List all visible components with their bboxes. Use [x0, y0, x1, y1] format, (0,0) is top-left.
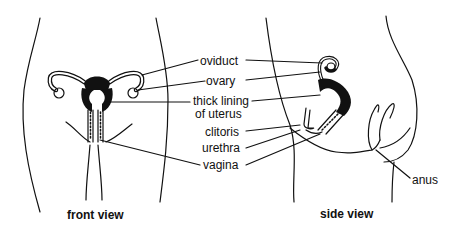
label-urethra: urethra [202, 142, 240, 155]
front-oviduct-right [110, 73, 142, 90]
front-ovary-left [54, 88, 64, 98]
caption-front-view: front view [67, 208, 124, 222]
front-groin-left [66, 122, 90, 142]
side-uterus-lining [318, 79, 351, 117]
front-groin-right [106, 124, 132, 142]
leader-ovary-side [246, 72, 320, 80]
leader-oviduct-side [246, 60, 322, 63]
leader-vagina-front [100, 140, 200, 165]
label-clitoris: clitoris [205, 126, 239, 139]
front-body-left-outline [23, 18, 40, 212]
label-of-uterus: of uterus [195, 108, 242, 121]
leader-oviduct-front [142, 60, 198, 75]
leader-ovary-front [138, 81, 205, 90]
front-uterus-left-lining [81, 88, 94, 112]
label-ovary: ovary [206, 75, 235, 88]
leader-thick-lining-side [252, 95, 320, 101]
label-vagina: vagina [203, 159, 238, 172]
front-leg-left [86, 145, 90, 200]
front-body-right-outline [156, 18, 168, 202]
side-buttock-crease-1 [368, 105, 378, 150]
side-body-back-outline [384, 16, 417, 162]
label-anus: anus [412, 174, 438, 187]
front-uterus-fundus [84, 77, 110, 91]
label-oviduct: oviduct [200, 55, 238, 68]
front-uterus-right-lining [100, 88, 113, 112]
caption-side-view: side view [320, 207, 373, 221]
side-buttock-line [380, 128, 410, 148]
leader-vagina-side [246, 134, 320, 165]
side-body-front-outline [266, 18, 294, 202]
front-leg-right [98, 145, 102, 200]
front-ovary-right [128, 88, 138, 98]
front-oviduct-left [50, 73, 84, 90]
side-urethra [306, 130, 322, 133]
side-labia [304, 108, 314, 129]
side-buttock-crease-2 [380, 104, 395, 140]
side-leg-back [392, 162, 394, 202]
